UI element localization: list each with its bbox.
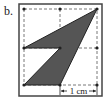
diagram-canvas: 1 cm bbox=[0, 0, 107, 100]
scale-label: 1 cm bbox=[70, 86, 88, 96]
scale-bar: 1 cm bbox=[60, 86, 97, 96]
